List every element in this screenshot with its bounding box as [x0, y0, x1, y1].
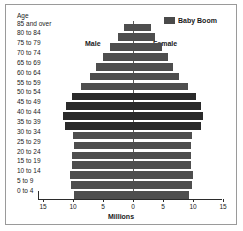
age-label: 40 to 44: [17, 108, 41, 115]
x-axis-tick: [103, 199, 104, 202]
x-axis-title: Millions: [6, 213, 236, 220]
age-label: 55 to 59: [17, 79, 41, 86]
bar-male: [73, 132, 133, 140]
bar-male: [66, 102, 133, 110]
bar-female: [133, 93, 196, 101]
bar-male: [74, 142, 133, 150]
bar-male: [72, 161, 133, 169]
bar-female: [133, 191, 189, 199]
bar-male: [81, 83, 133, 91]
bar-female: [133, 73, 179, 81]
x-axis-line: [38, 199, 222, 200]
legend-label-baby-boom: Baby Boom: [178, 17, 217, 24]
bar-male: [96, 63, 133, 71]
age-label: 80 to 84: [17, 29, 41, 36]
age-label: 0 to 4: [17, 187, 33, 194]
x-axis-tick-label: 15: [213, 203, 233, 211]
x-axis-tick-label: 0: [123, 203, 143, 211]
x-axis-tick: [193, 199, 194, 202]
chart-frame: Age 85 and over80 to 8475 to 7970 to 746…: [5, 4, 237, 225]
x-axis-tick: [73, 199, 74, 202]
bar-male: [72, 93, 133, 101]
bar-male: [71, 181, 133, 189]
bar-female: [133, 24, 151, 32]
age-label: 30 to 34: [17, 128, 41, 135]
bar-female: [133, 161, 191, 169]
age-label: 25 to 29: [17, 138, 41, 145]
bar-male: [103, 53, 133, 61]
bar-male: [110, 43, 133, 51]
bar-female: [133, 102, 201, 110]
x-axis-tick-label: 15: [33, 203, 53, 211]
bar-male: [74, 191, 133, 199]
legend-swatch-baby-boom: [164, 17, 175, 24]
age-label: 45 to 49: [17, 98, 41, 105]
bar-male: [90, 73, 133, 81]
bar-female: [133, 112, 203, 120]
age-label: 75 to 79: [17, 39, 41, 46]
bar-male: [63, 112, 133, 120]
age-label: 15 to 19: [17, 157, 41, 164]
bar-female: [133, 33, 155, 41]
legend: Baby Boom: [164, 17, 217, 24]
x-axis-tick: [223, 199, 224, 202]
age-label: 20 to 24: [17, 148, 41, 155]
age-label: 65 to 69: [17, 59, 41, 66]
male-label: Male: [85, 40, 101, 47]
bar-female: [133, 171, 193, 179]
x-axis-tick: [163, 199, 164, 202]
x-axis-tick: [43, 199, 44, 202]
bar-female: [133, 181, 192, 189]
bar-female: [133, 43, 162, 51]
age-label: 50 to 54: [17, 88, 41, 95]
bar-male: [124, 24, 133, 32]
x-axis-tick-label: 5: [153, 203, 173, 211]
x-axis-tick-label: 10: [63, 203, 83, 211]
bar-female: [133, 83, 188, 91]
bar-male: [72, 152, 133, 160]
bar-female: [133, 122, 201, 130]
bar-female: [133, 132, 192, 140]
bar-male: [70, 171, 133, 179]
bar-female: [133, 53, 168, 61]
age-axis-title: Age: [17, 12, 29, 19]
age-label: 35 to 39: [17, 118, 41, 125]
bar-male: [118, 33, 133, 41]
age-label: 70 to 74: [17, 49, 41, 56]
age-label: 10 to 14: [17, 167, 41, 174]
bar-female: [133, 142, 191, 150]
age-label: 60 to 64: [17, 69, 41, 76]
age-label: 5 to 9: [17, 177, 33, 184]
x-axis-tick: [133, 199, 134, 202]
x-axis-tick-label: 5: [93, 203, 113, 211]
bar-female: [133, 152, 191, 160]
x-axis-tick-label: 10: [183, 203, 203, 211]
bar-male: [65, 122, 133, 130]
bar-female: [133, 63, 173, 71]
